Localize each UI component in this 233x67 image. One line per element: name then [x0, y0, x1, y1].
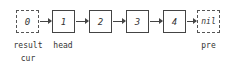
label-head: head: [48, 41, 78, 50]
node-2: 2: [89, 10, 112, 33]
node-1: 1: [52, 10, 75, 33]
node-nil: nil: [197, 10, 220, 33]
arrow-0-1: [40, 21, 51, 22]
node-3: 3: [126, 10, 149, 33]
label-result: result: [8, 41, 48, 50]
arrow-1-2: [76, 21, 88, 22]
arrow-3-4: [150, 21, 162, 22]
arrow-2-3: [113, 21, 125, 22]
arrow-4-nil: [187, 21, 196, 22]
node-0: 0: [16, 10, 39, 33]
node-4: 4: [163, 10, 186, 33]
label-cur: cur: [8, 54, 48, 63]
label-pre: pre: [195, 41, 222, 50]
